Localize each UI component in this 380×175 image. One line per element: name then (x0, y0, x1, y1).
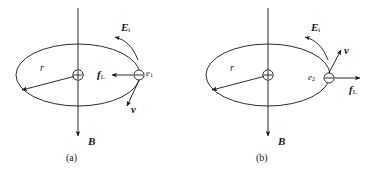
electron-symbol-a (134, 70, 144, 80)
induced-field-subscript-b: i (318, 26, 320, 33)
radius-arrow-a (22, 77, 74, 91)
induced-field-label-b: Ei (311, 22, 320, 34)
induced-field-label-a: Ei (121, 22, 130, 34)
center-plus-icon-a (73, 70, 83, 80)
caption-a: (a) (66, 152, 77, 163)
center-plus-icon-b (263, 70, 273, 80)
magnetic-field-label-a: B (88, 136, 95, 147)
electron-subscript-a: 1 (150, 71, 153, 78)
induced-field-arc-a (115, 37, 138, 60)
velocity-arrow-b (329, 50, 341, 73)
electron-label-b: e2 (308, 73, 315, 82)
electron-symbol-b (324, 73, 334, 83)
lorentz-force-subscript-a: L (101, 73, 105, 80)
lorentz-force-subscript-b: L (353, 88, 357, 95)
lorentz-force-label-a: fL (97, 69, 105, 81)
electron-subscript-b: 2 (312, 75, 315, 82)
caption-b: (b) (256, 152, 268, 163)
radius-arrow-b (212, 77, 264, 91)
physics-figure: r Ei B v fL e1 (a) r Ei B v fL e2 (b) (0, 0, 380, 175)
radius-label-a: r (40, 63, 44, 73)
lorentz-force-label-b: fL (349, 84, 357, 96)
induced-field-subscript-a: i (128, 26, 130, 33)
magnetic-field-label-b: B (278, 136, 285, 147)
figure-canvas (0, 0, 380, 175)
electron-label-a: e1 (146, 69, 153, 78)
velocity-label-b: v (344, 45, 349, 56)
induced-field-arc-b (305, 37, 328, 60)
velocity-label-a: v (131, 104, 136, 115)
radius-label-b: r (230, 63, 234, 73)
